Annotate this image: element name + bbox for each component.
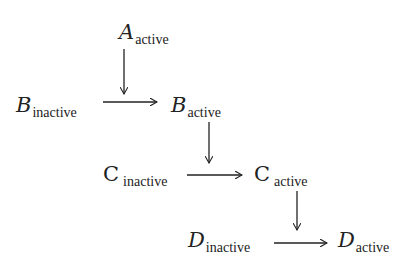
node-state: inactive [32,105,76,120]
node-c-inactive: Cinactive [103,164,167,185]
node-state: inactive [206,240,250,255]
node-letter: D [338,228,355,252]
node-state: active [356,240,389,255]
node-state: inactive [123,174,167,189]
node-letter: B [171,93,186,117]
node-letter: B [16,93,31,117]
node-letter: A [119,20,134,44]
node-letter: C [103,162,119,186]
node-d-inactive: Dinactive [188,230,250,251]
node-state: active [135,32,168,47]
node-state: active [187,105,220,120]
node-d-active: Dactive [338,230,389,251]
node-state: active [274,174,307,189]
node-b-active: Bactive [171,95,221,116]
node-letter: C [254,162,270,186]
node-letter: D [188,228,205,252]
node-a-active: Aactive [119,22,169,43]
arrows-layer [0,0,411,264]
node-c-active: Cactive [254,164,308,185]
node-b-inactive: Binactive [16,95,77,116]
